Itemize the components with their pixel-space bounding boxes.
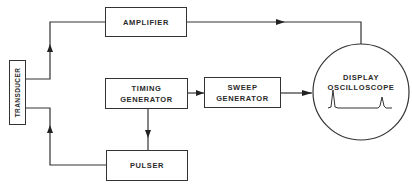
timing-generator-label-line2: GENERATOR [120,94,173,105]
arrow-up-icon [47,125,53,133]
pulser-label: PULSER [130,160,164,171]
arrow-down-icon [145,130,151,138]
arrow-right-icon [302,90,312,96]
timing-generator-label-line1: TIMING [132,83,162,94]
timing-generator-block: TIMING GENERATOR [105,78,188,109]
arrow-up-icon [47,44,53,52]
block-diagram: TRANSDUCER AMPLIFIER TIMING GENERATOR SW… [0,0,412,184]
sweep-generator-label-line1: SWEEP [227,82,257,93]
sweep-generator-block: SWEEP GENERATOR [204,77,281,108]
transducer-to-amplifier-line [26,22,105,79]
transducer-block: TRANSDUCER [9,60,26,125]
amplifier-block: AMPLIFIER [105,7,187,37]
display-label-line2: OSCILLOSCOPE [321,82,401,93]
amplifier-to-display-line [187,22,361,44]
arrow-right-icon [196,90,204,96]
pulser-to-transducer-line [26,108,106,165]
transducer-label: TRANSDUCER [12,68,23,118]
sweep-generator-label-line2: GENERATOR [216,93,269,104]
arrow-right-icon [276,19,285,25]
amplifier-label: AMPLIFIER [123,17,169,28]
pulser-block: PULSER [106,150,188,181]
